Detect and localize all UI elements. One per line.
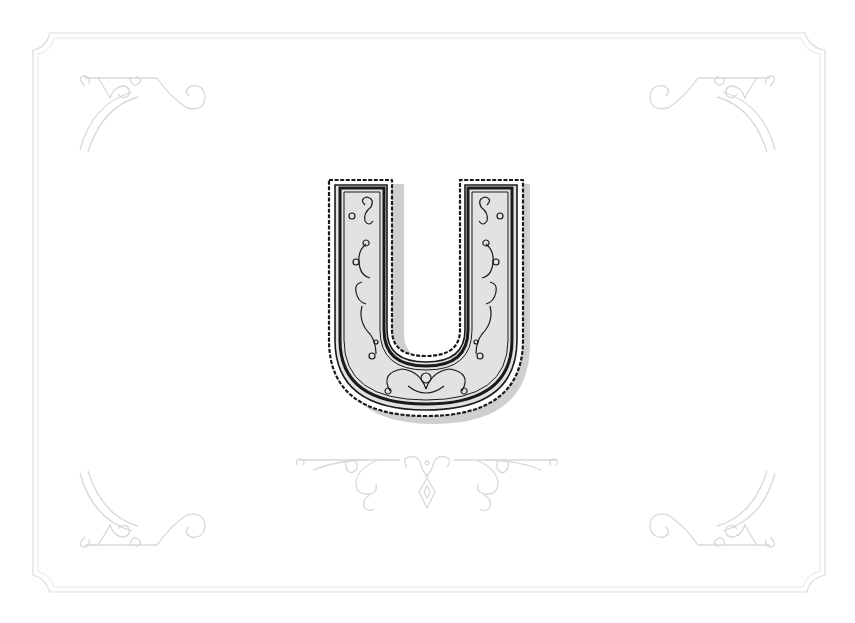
- ornamental-card: [0, 0, 855, 623]
- letter-u-monogram: [329, 180, 530, 424]
- corner-ornament-bottom-left-icon: [80, 471, 205, 547]
- corner-ornament-top-right-icon: [650, 76, 775, 152]
- frame: [33, 33, 825, 592]
- center-flourish-icon: [296, 457, 557, 511]
- corner-ornament-top-left-icon: [80, 76, 205, 152]
- corner-ornament-bottom-right-icon: [650, 471, 775, 547]
